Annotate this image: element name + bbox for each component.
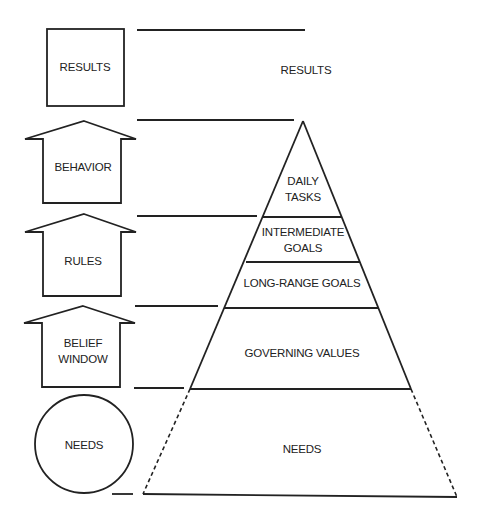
- intermediate-goals-line2: GOALS: [262, 240, 344, 256]
- behavior-arrow-label: BEHAVIOR: [55, 159, 112, 175]
- pyramid-level-governing-values: GOVERNING VALUES: [245, 345, 360, 361]
- belief-window-line2: WINDOW: [58, 351, 107, 367]
- pyramid-base-left-dashed: [143, 389, 190, 494]
- pyramid-top-results-label: RESULTS: [281, 62, 332, 78]
- pyramid-level-long-range-goals: LONG-RANGE GOALS: [244, 275, 361, 291]
- pyramid-level-daily-tasks: DAILY TASKS: [285, 173, 321, 205]
- pyramid-base-right-dashed: [411, 389, 457, 497]
- daily-tasks-line1: DAILY: [285, 173, 321, 189]
- results-box-label: RESULTS: [60, 59, 111, 75]
- pyramid-level-intermediate-goals: INTERMEDIATE GOALS: [262, 224, 344, 256]
- pyramid-base: [143, 494, 457, 497]
- needs-circle-label: NEEDS: [65, 437, 104, 453]
- belief-window-label: BELIEF WINDOW: [58, 335, 107, 367]
- daily-tasks-line2: TASKS: [285, 189, 321, 205]
- rules-arrow-label: RULES: [64, 253, 101, 269]
- intermediate-goals-line1: INTERMEDIATE: [262, 224, 344, 240]
- belief-window-line1: BELIEF: [58, 335, 107, 351]
- pyramid-level-needs: NEEDS: [283, 441, 322, 457]
